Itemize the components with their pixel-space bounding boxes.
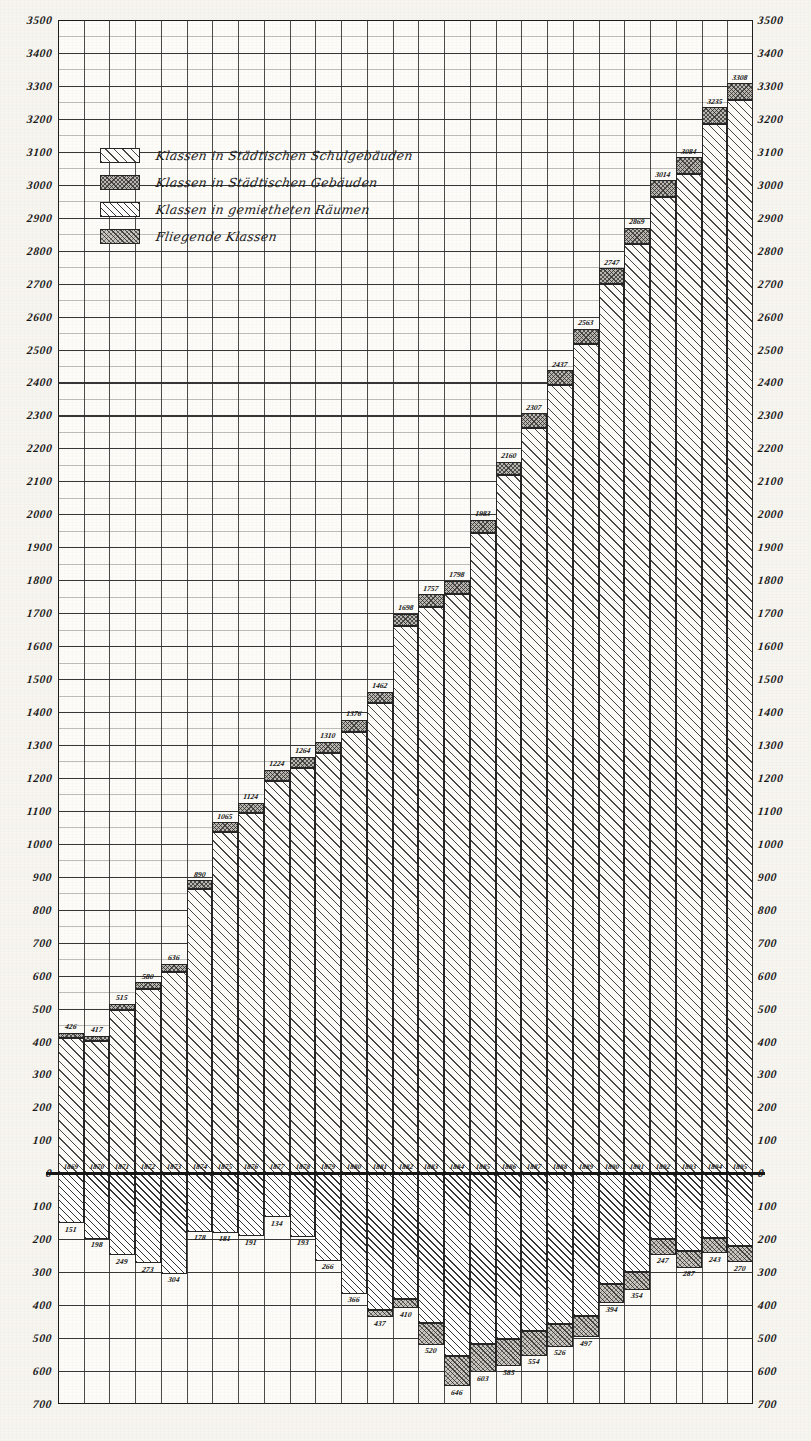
x-axis-year-label: 1874 — [186, 1162, 213, 1171]
bar-segment-staedtische-gebaeude — [238, 803, 264, 813]
bar-segment-gemiethete-raeume — [418, 1173, 444, 1323]
bar-segment-staedtische-gebaeude — [109, 1004, 135, 1011]
bar-value-label-negative: 437 — [366, 1319, 393, 1328]
legend-item: Fliegende Klassen — [100, 223, 413, 250]
y-axis-tick-label: 1600 — [26, 640, 53, 652]
y-axis-tick-label: 500 — [32, 1003, 52, 1015]
bar-segment-schulgebaeude — [341, 732, 367, 1174]
bar-segment-fliegende-klassen — [496, 1339, 522, 1366]
bar-segment-gemiethete-raeume — [470, 1173, 496, 1343]
bar-segment-fliegende-klassen — [727, 1246, 753, 1262]
bar-value-label-negative: 249 — [109, 1257, 136, 1266]
bar-segment-gemiethete-raeume — [187, 1173, 213, 1232]
y-axis-tick-label: 2900 — [757, 212, 784, 224]
bar-value-label-positive: 1376 — [341, 709, 368, 718]
bar-value-label-negative: 394 — [598, 1305, 625, 1314]
bar-segment-gemiethete-raeume — [727, 1173, 753, 1245]
y-axis-tick-label: 100 — [32, 1134, 52, 1146]
bar-segment-fliegende-klassen — [624, 1272, 650, 1290]
bar-segment-schulgebaeude — [135, 989, 161, 1173]
x-axis-year-label: 1891 — [624, 1162, 651, 1171]
x-axis-year-label: 1879 — [315, 1162, 342, 1171]
bar-value-label-negative: 134 — [263, 1219, 290, 1228]
bar-segment-staedtische-gebaeude — [444, 581, 470, 594]
bar-segment-staedtische-gebaeude — [676, 157, 702, 173]
x-axis-year-label: 1887 — [521, 1162, 548, 1171]
y-axis-tick-label: 2300 — [26, 409, 53, 421]
y-axis-tick-label: 3000 — [26, 179, 53, 191]
bar-value-label-negative: 273 — [135, 1265, 162, 1274]
y-axis-tick-label: 3500 — [26, 14, 53, 26]
gridline-horizontal — [58, 1338, 753, 1339]
legend-item: Klassen in Städtischen Gebäuden — [100, 169, 413, 196]
bar-segment-gemiethete-raeume — [702, 1173, 728, 1238]
bar-value-label-negative: 410 — [392, 1310, 419, 1319]
bar-segment-schulgebaeude — [650, 197, 676, 1174]
x-axis-year-label: 1885 — [469, 1162, 496, 1171]
x-axis-year-label: 1892 — [649, 1162, 676, 1171]
bar-value-label-positive: 2869 — [624, 217, 651, 226]
bar-segment-staedtische-gebaeude — [573, 329, 599, 344]
bar-value-label-positive: 636 — [160, 953, 187, 962]
zero-baseline — [46, 1172, 765, 1174]
bar-segment-schulgebaeude — [418, 607, 444, 1173]
bar-value-label-negative: 151 — [57, 1225, 84, 1234]
bar-segment-gemiethete-raeume — [496, 1173, 522, 1339]
bar-segment-staedtische-gebaeude — [84, 1036, 110, 1041]
bar-segment-schulgebaeude — [727, 100, 753, 1173]
y-axis-tick-label: 300 — [32, 1266, 52, 1278]
y-axis-tick-label: 1300 — [26, 739, 53, 751]
bar-segment-staedtische-gebaeude — [702, 107, 728, 124]
bar-segment-staedtische-gebaeude — [547, 370, 573, 384]
y-axis-tick-label: 2100 — [26, 475, 53, 487]
x-axis-year-label: 1895 — [727, 1162, 754, 1171]
x-axis-year-label: 1877 — [263, 1162, 290, 1171]
bar-segment-gemiethete-raeume — [573, 1173, 599, 1316]
gridline-horizontal — [58, 1371, 753, 1372]
bar-segment-fliegende-klassen — [702, 1238, 728, 1253]
y-axis-tick-label: 2000 — [757, 508, 784, 520]
y-axis-tick-label: 400 — [757, 1036, 777, 1048]
bar-segment-fliegende-klassen — [676, 1251, 702, 1268]
bar-segment-gemiethete-raeume — [367, 1173, 393, 1310]
bar-segment-gemiethete-raeume — [341, 1173, 367, 1294]
legend-item-label: Klassen in Städtischen Schulgebäuden — [155, 148, 414, 163]
legend-item-label: Klassen in gemietheten Räumen — [155, 202, 371, 217]
bar-segment-schulgebaeude — [393, 626, 419, 1173]
x-axis-year-label: 1871 — [109, 1162, 136, 1171]
bar-value-label-positive: 1124 — [238, 792, 265, 801]
bar-segment-schulgebaeude — [470, 533, 496, 1173]
y-axis-tick-label: 2700 — [26, 278, 53, 290]
bar-segment-fliegende-klassen — [573, 1316, 599, 1337]
bar-segment-gemiethete-raeume — [650, 1173, 676, 1239]
chart-legend: Klassen in Städtischen SchulgebäudenKlas… — [100, 142, 413, 250]
bar-value-label-negative: 520 — [418, 1346, 445, 1355]
bar-segment-staedtische-gebaeude — [393, 614, 419, 627]
x-axis-year-label: 1880 — [341, 1162, 368, 1171]
bar-segment-gemiethete-raeume — [238, 1173, 264, 1236]
bar-segment-staedtische-gebaeude — [470, 520, 496, 533]
y-axis-tick-label: 200 — [32, 1233, 52, 1245]
bar-value-label-positive: 1698 — [392, 603, 419, 612]
bar-segment-fliegende-klassen — [418, 1323, 444, 1345]
bar-value-label-negative: 526 — [546, 1348, 573, 1357]
y-axis-tick-label: 600 — [32, 1365, 52, 1377]
bar-value-label-positive: 426 — [57, 1022, 84, 1031]
y-axis-tick-label: 2500 — [757, 344, 784, 356]
y-axis-tick-label: 3200 — [26, 113, 53, 125]
bar-value-label-positive: 3308 — [727, 73, 754, 82]
bar-value-label-positive: 890 — [186, 870, 213, 879]
x-axis-year-label: 1881 — [366, 1162, 393, 1171]
x-axis-year-label: 1883 — [418, 1162, 445, 1171]
bar-segment-gemiethete-raeume — [315, 1173, 341, 1261]
bar-segment-schulgebaeude — [547, 385, 573, 1174]
y-axis-tick-label: 400 — [32, 1036, 52, 1048]
y-axis-tick-label: 700 — [32, 937, 52, 949]
bar-segment-staedtische-gebaeude — [135, 982, 161, 989]
bar-segment-schulgebaeude — [161, 972, 187, 1173]
bar-segment-gemiethete-raeume — [676, 1173, 702, 1250]
y-axis-tick-label: 1600 — [757, 640, 784, 652]
y-axis-tick-label: 100 — [757, 1134, 777, 1146]
legend-item: Klassen in gemietheten Räumen — [100, 196, 413, 223]
y-axis-tick-label: 2500 — [26, 344, 53, 356]
